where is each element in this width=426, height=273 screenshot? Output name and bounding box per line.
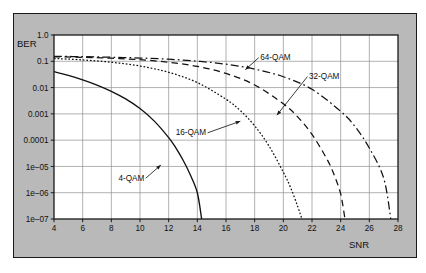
ber-vs-snr-chart: 468101214161820222426281.00.10.010.0010.…	[14, 14, 418, 259]
x-tick-label: 18	[250, 224, 260, 233]
y-tick-label: 0.0001	[23, 136, 48, 145]
annotation-label-32-qam: 32-QAM	[309, 72, 340, 81]
y-tick-label: 1.0	[37, 31, 49, 40]
x-tick-label: 4	[52, 224, 57, 233]
x-tick-label: 28	[393, 224, 403, 233]
y-axis-title: BER	[17, 38, 37, 49]
x-axis-title: SNR	[349, 239, 369, 250]
annotation-label-64-qam: 64-QAM	[260, 53, 291, 62]
chart-frame: 468101214161820222426281.00.10.010.0010.…	[13, 13, 417, 258]
x-tick-label: 24	[336, 224, 346, 233]
x-tick-label: 10	[135, 224, 145, 233]
x-tick-label: 12	[164, 224, 174, 233]
x-tick-label: 6	[80, 224, 85, 233]
figure-root: 468101214161820222426281.00.10.010.0010.…	[0, 0, 426, 273]
x-tick-label: 16	[221, 224, 231, 233]
x-tick-label: 8	[109, 224, 114, 233]
y-tick-label: 0.01	[33, 84, 49, 93]
y-tick-label: 1e–06	[26, 189, 49, 198]
y-tick-label: 1e–07	[26, 215, 49, 224]
y-tick-label: 0.1	[37, 57, 49, 66]
x-tick-label: 20	[279, 224, 289, 233]
annotation-label-4-qam: 4-QAM	[118, 174, 144, 183]
y-tick-label: 1e–05	[26, 163, 49, 172]
annotation-label-16-qam: 16-QAM	[176, 128, 207, 137]
x-tick-label: 22	[307, 224, 317, 233]
x-tick-label: 14	[193, 224, 203, 233]
x-tick-label: 26	[365, 224, 375, 233]
y-tick-label: 0.001	[28, 110, 49, 119]
